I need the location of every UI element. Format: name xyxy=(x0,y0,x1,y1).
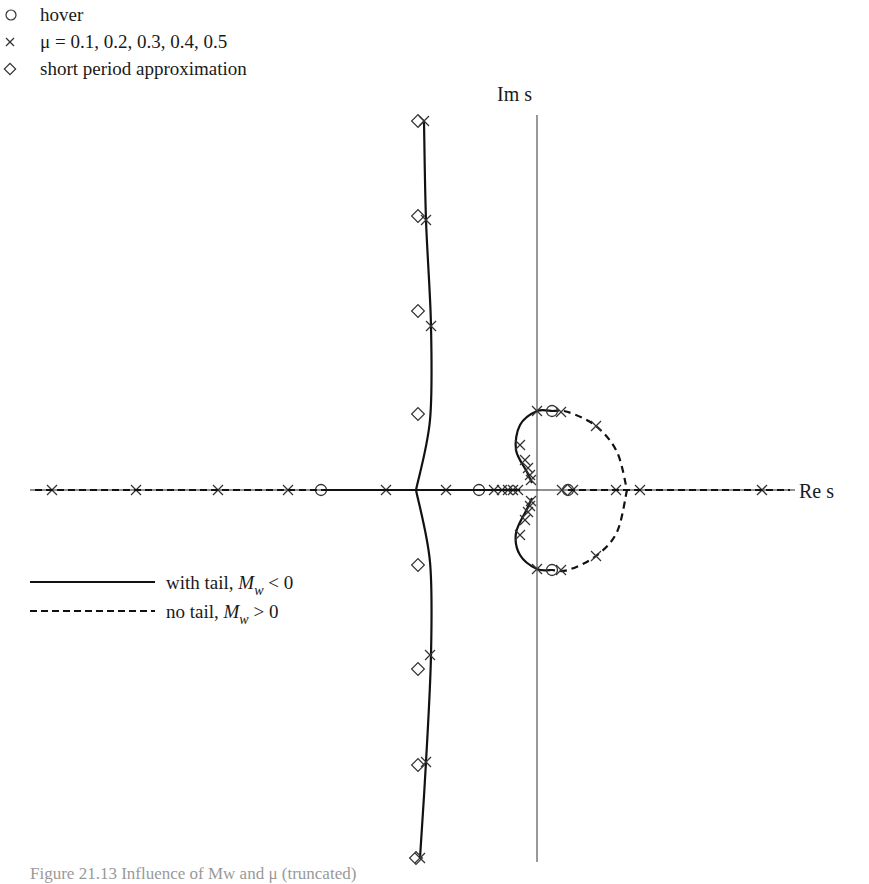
diamond-marker xyxy=(412,115,425,128)
with-tail-locus xyxy=(416,490,432,858)
mu-x-marker xyxy=(591,421,601,431)
x-mark-icon xyxy=(6,38,14,46)
legend-mu-label: μ = 0.1, 0.2, 0.3, 0.4, 0.5 xyxy=(40,31,227,52)
diamond-marker xyxy=(412,559,425,572)
no-tail-locus xyxy=(552,411,627,490)
marker-legend: hover μ = 0.1, 0.2, 0.3, 0.4, 0.5 short … xyxy=(4,4,247,79)
legend-with-tail-label: with tail, Mw < 0 xyxy=(166,572,293,598)
mu-x-marker xyxy=(520,455,530,465)
axis-label-im: Im s xyxy=(497,83,532,105)
diamond-marker xyxy=(412,408,425,421)
axis-label-re: Re s xyxy=(799,480,834,502)
line-legend: with tail, Mw < 0 no tail, Mw > 0 xyxy=(30,572,293,627)
legend-hover-label: hover xyxy=(40,4,84,25)
figure-caption: Figure 21.13 Influence of Mw and μ (trun… xyxy=(30,864,356,884)
no-tail-locus xyxy=(552,490,627,571)
mu-x-marker xyxy=(591,551,601,561)
legend-no-tail-label: no tail, Mw > 0 xyxy=(166,601,278,627)
diamond-icon xyxy=(4,63,15,74)
legend-short-period-label: short period approximation xyxy=(40,58,247,79)
root-locus-plot: Im s Re s hover μ = 0.1, 0.2, 0.3, 0.4, … xyxy=(0,0,869,884)
circle-icon xyxy=(6,10,16,20)
diamond-marker xyxy=(412,305,425,318)
axis-label-im-text: Im s xyxy=(497,83,532,105)
diamond-marker xyxy=(412,663,425,676)
